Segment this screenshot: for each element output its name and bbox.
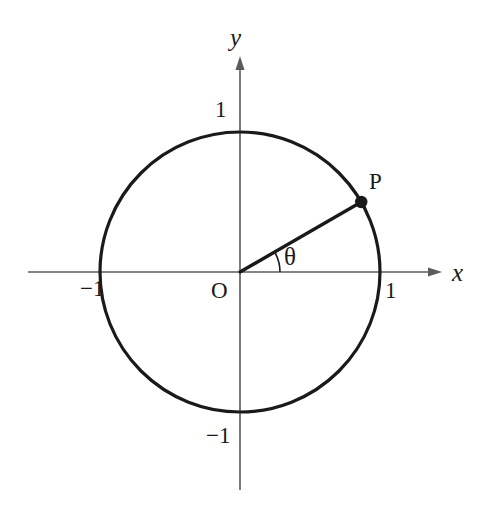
y-tick-label-positive-one: 1	[215, 98, 227, 121]
x-axis-label: x	[452, 260, 463, 285]
x-axis-arrowhead-icon	[428, 268, 442, 277]
y-axis-label: y	[230, 25, 241, 50]
x-tick-label-positive-one: 1	[385, 279, 397, 302]
unit-circle-figure: y x 1 −1 −1 1 O P θ	[0, 0, 499, 514]
point-p-label: P	[369, 170, 382, 193]
unit-circle-drawing	[0, 0, 499, 514]
theta-angle-label: θ	[284, 244, 296, 269]
point-p-marker	[355, 196, 367, 208]
y-tick-label-negative-one: −1	[206, 424, 230, 447]
origin-label: O	[211, 279, 228, 302]
radius-segment-op	[240, 202, 361, 272]
theta-angle-arc	[275, 252, 280, 272]
x-tick-label-negative-one: −1	[80, 277, 104, 300]
y-axis-arrowhead-icon	[236, 56, 245, 70]
